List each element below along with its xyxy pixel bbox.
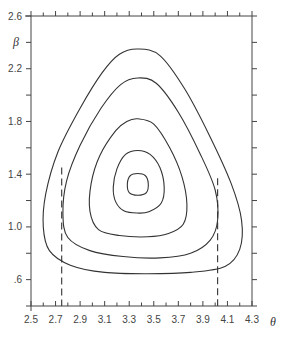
x-tick-label: 3.5 (147, 314, 161, 325)
x-tick-label: 2.9 (73, 314, 87, 325)
y-tick-label: 1.4 (8, 169, 22, 180)
x-tick-label: 4.3 (245, 314, 259, 325)
x-axis-label: θ (270, 315, 276, 329)
y-axis-label: β (12, 35, 19, 49)
contour-3 (89, 119, 187, 237)
x-tick-label: 4.1 (220, 314, 234, 325)
contour-innermost (127, 174, 148, 196)
x-axis-tick-labels: 2.52.72.93.13.33.53.73.94.14.3 (24, 314, 259, 325)
x-axis-ticks (31, 11, 252, 306)
y-axis-tick-labels: .61.01.41.82.22.6 (8, 11, 22, 286)
x-tick-label: 3.9 (196, 314, 210, 325)
y-tick-label: 1.8 (8, 116, 22, 127)
contour-chart: 2.52.72.93.13.33.53.73.94.14.3 .61.01.41… (0, 0, 287, 337)
y-tick-label: 2.6 (8, 11, 22, 22)
contour-4 (113, 150, 164, 213)
x-tick-label: 2.7 (49, 314, 63, 325)
contour-2 (63, 78, 218, 258)
contour-lines (43, 49, 242, 274)
y-axis-ticks (26, 16, 257, 306)
y-tick-label: 1.0 (8, 221, 22, 232)
x-tick-label: 3.1 (98, 314, 112, 325)
x-tick-label: 2.5 (24, 314, 38, 325)
x-tick-label: 3.3 (122, 314, 136, 325)
y-tick-label: .6 (14, 274, 23, 285)
x-tick-label: 3.7 (171, 314, 185, 325)
y-tick-label: 2.2 (8, 63, 22, 74)
